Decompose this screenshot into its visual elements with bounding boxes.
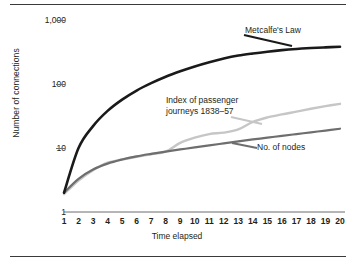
y-axis-label: Number of connections [11, 13, 21, 173]
y-tick-100: 100 [0, 79, 66, 89]
series-line-no-of-nodes [64, 129, 340, 193]
series-label-nodes: No. of nodes [257, 142, 305, 153]
y-tick-10: 10 [0, 143, 66, 153]
series-label-metcalfe: Metcalfe's Law [245, 25, 301, 36]
y-tick-1000: 1,000 [0, 15, 66, 25]
leader-metcalfe [244, 35, 292, 46]
y-tick-dash [56, 148, 65, 149]
x-axis-label: Time elapsed [0, 231, 354, 241]
x-tick-20: 20 [331, 216, 349, 226]
figure-container: 1,000100101 Number of connections 123456… [0, 0, 354, 261]
y-tick-dash [56, 84, 65, 85]
y-tick-dash [56, 20, 65, 21]
leader-nodes [232, 143, 257, 148]
series-line-metcalfe-s-law [64, 47, 340, 193]
series-label-passenger: Index of passenger journeys 1838–57 [166, 95, 238, 116]
